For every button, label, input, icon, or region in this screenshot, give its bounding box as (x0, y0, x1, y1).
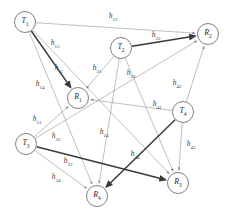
node-label-r1: R1 (74, 93, 82, 103)
edge-t3-r4 (35, 150, 87, 188)
node-label-t2: T2 (117, 43, 124, 53)
edge-label-h43: h43 (187, 140, 196, 150)
edge-label-h13: h13 (51, 39, 60, 49)
edge-t4-r2 (186, 46, 204, 101)
edge-label-h33: h33 (64, 157, 73, 167)
edge-t1-r3 (33, 30, 170, 174)
graph-svg (0, 0, 233, 224)
node-label-r4: R4 (93, 191, 101, 201)
edge-t1-r4 (29, 32, 92, 184)
node-label-r2: R2 (204, 29, 212, 39)
edge-label-h14: h14 (36, 80, 45, 90)
node-label-r3: R3 (174, 178, 182, 188)
edge-t1-r2 (36, 23, 195, 33)
edge-label-h21: h21 (93, 64, 102, 74)
edge-label-h24: h24 (100, 128, 109, 138)
diagram-canvas: h12h13h11h14h21h22h23h24h31h32h33h34h41h… (0, 0, 233, 224)
edge-label-h31: h31 (33, 115, 42, 125)
edge-label-h34: h34 (52, 173, 61, 183)
edge-label-h42: h42 (173, 79, 182, 89)
edge-label-h22: h22 (152, 31, 161, 41)
edge-t2-r2 (132, 36, 195, 46)
node-label-t1: T1 (21, 17, 28, 27)
edge-t4-r4 (106, 120, 175, 187)
node-label-t3: T3 (22, 139, 29, 149)
edge-label-h11: h11 (55, 64, 64, 74)
edge-label-h23: h23 (127, 69, 136, 79)
node-label-t4: T4 (179, 107, 186, 117)
edge-label-h32: h32 (52, 132, 61, 142)
edge-label-h12: h12 (109, 12, 118, 22)
edge-label-h44: h44 (131, 150, 140, 160)
edge-label-h41: h41 (153, 100, 162, 110)
edge-t4-r3 (179, 123, 182, 170)
